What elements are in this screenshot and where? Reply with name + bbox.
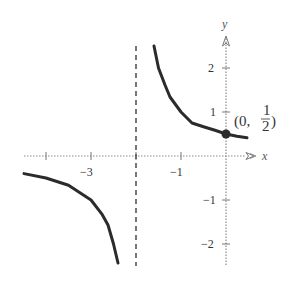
point-label-close: ) xyxy=(271,113,276,130)
x-tick-label-neg1: −1 xyxy=(170,165,183,179)
x-tick-label-neg3: −3 xyxy=(80,165,93,179)
rational-function-graph: x −3 −1 y 2 1 −1 −2 (0, 1 2 ) xyxy=(0,0,299,284)
point-y-intercept xyxy=(222,130,231,139)
curve-left-branch xyxy=(24,174,118,263)
y-tick-label-1: 1 xyxy=(210,105,216,119)
x-axis-label: x xyxy=(261,149,268,163)
point-label-denominator: 2 xyxy=(262,118,270,134)
y-tick-label-neg1: −1 xyxy=(203,193,216,207)
y-axis-arrow-icon xyxy=(223,36,230,46)
y-axis: y 2 1 −1 −2 xyxy=(201,17,230,265)
x-axis: x −3 −1 xyxy=(24,149,268,179)
y-tick-label-neg2: −2 xyxy=(201,237,214,251)
point-label-open: (0, xyxy=(234,113,250,130)
y-axis-label: y xyxy=(221,17,228,31)
point-label: (0, 1 2 ) xyxy=(234,102,276,134)
y-tick-label-2: 2 xyxy=(208,61,214,75)
point-label-numerator: 1 xyxy=(263,102,271,118)
